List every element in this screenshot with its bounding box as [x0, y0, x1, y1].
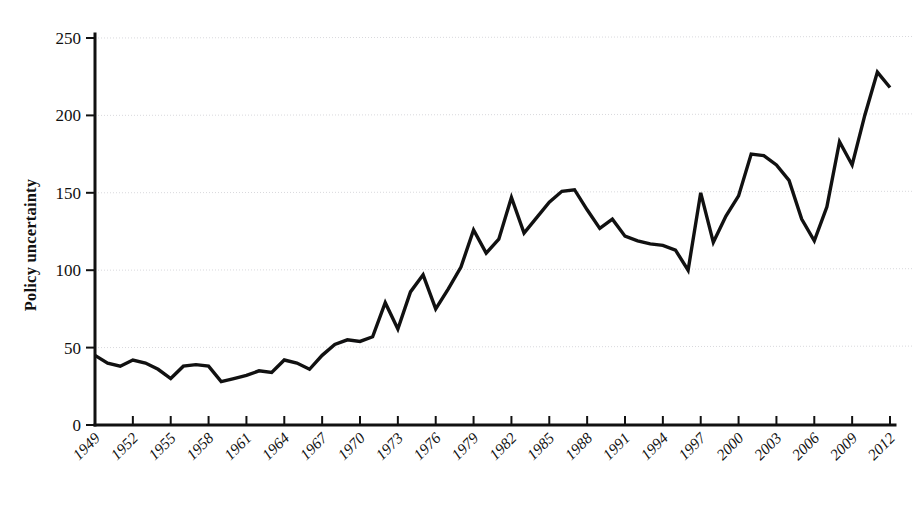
chart-canvas: 050100150200250 194919521955195819611964…	[0, 0, 918, 505]
y-axis-tick-label: 0	[73, 416, 82, 435]
y-axis-tick-label: 200	[56, 106, 82, 125]
y-axis-tick-label: 100	[56, 261, 82, 280]
y-axis-tick-label: 50	[64, 339, 81, 358]
y-axis-label: Policy uncertainty	[21, 178, 40, 311]
policy-uncertainty-chart: 050100150200250 194919521955195819611964…	[0, 0, 918, 505]
y-axis-tick-label: 150	[56, 184, 82, 203]
chart-background	[0, 0, 918, 505]
y-axis-tick-label: 250	[56, 29, 82, 48]
